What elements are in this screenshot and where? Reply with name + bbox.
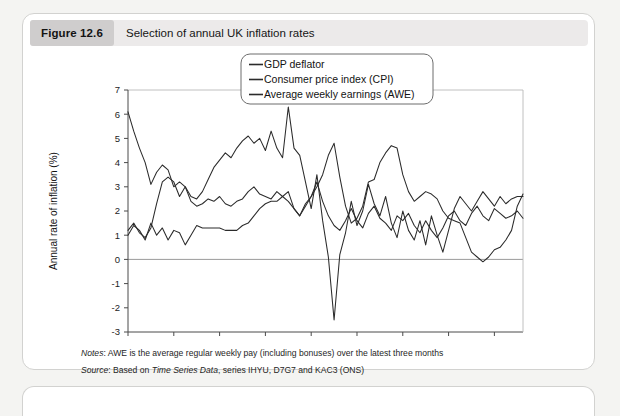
y-tick-label: 3: [115, 181, 120, 192]
y-axis-title: Annual rate of inflation (%): [48, 152, 59, 270]
source-post: , series IHYU, D7G7 and KAC3 (ONS): [218, 365, 364, 375]
y-tick-label: 6: [115, 109, 120, 120]
legend-label-2: Average weekly earnings (AWE): [264, 88, 415, 100]
legend-label-0: GDP deflator: [264, 58, 325, 70]
notes-line: Notes: AWE is the average regular weekly…: [81, 349, 581, 358]
y-tick-label: 0: [115, 254, 120, 265]
series-line-1: [128, 143, 523, 262]
inflation-line-chart: -3-2-10123456720012003200520072009201120…: [23, 50, 596, 340]
source-label: Source: [81, 365, 108, 375]
chart-area: -3-2-10123456720012003200520072009201120…: [23, 50, 596, 340]
legend-label-1: Consumer price index (CPI): [264, 73, 394, 85]
x-tick-label: 2001: [117, 338, 138, 340]
chart-legend: GDP deflatorConsumer price index (CPI)Av…: [241, 54, 433, 104]
notes-label: Notes: [81, 348, 103, 358]
y-tick-label: 4: [115, 157, 120, 168]
source-pre: : Based on: [108, 365, 151, 375]
y-tick-label: -2: [112, 302, 120, 313]
x-tick-label: 2015: [438, 338, 459, 340]
y-tick-label: -1: [112, 278, 120, 289]
series-line-2: [128, 107, 523, 320]
x-tick-label: 2007: [255, 338, 276, 340]
figure-card: Figure 12.6 Selection of annual UK infla…: [22, 13, 595, 370]
y-tick-label: 2: [115, 205, 120, 216]
next-figure-card-partial: [22, 386, 595, 416]
x-tick-label: 2017: [484, 338, 505, 340]
x-tick-label: 2003: [163, 338, 184, 340]
figure-number-badge: Figure 12.6: [30, 20, 114, 46]
figure-caption: Selection of annual UK inflation rates: [126, 20, 315, 46]
x-tick-label: 2011: [347, 338, 367, 340]
notes-text: : AWE is the average regular weekly pay …: [103, 348, 443, 358]
series-line-0: [128, 177, 523, 238]
x-tick-label: 2005: [209, 338, 230, 340]
figure-footnotes: Notes: AWE is the average regular weekly…: [81, 349, 581, 382]
source-italic-title: Time Series Data: [152, 365, 218, 375]
y-tick-label: 1: [115, 230, 120, 241]
y-tick-label: 7: [115, 84, 120, 95]
x-tick-label: 2009: [301, 338, 322, 340]
source-line: Source: Based on Time Series Data, serie…: [81, 366, 581, 375]
y-tick-label: 5: [115, 133, 120, 144]
x-tick-label: 2013: [392, 338, 413, 340]
y-tick-label: -3: [112, 326, 120, 337]
figure-header: Figure 12.6 Selection of annual UK infla…: [30, 20, 588, 46]
